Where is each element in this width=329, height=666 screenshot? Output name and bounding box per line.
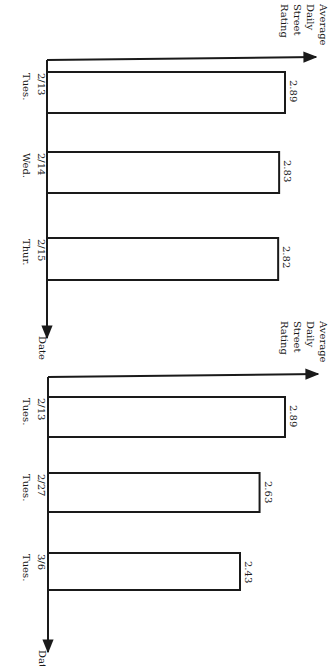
day-tick-label: Wed. — [21, 153, 32, 178]
day-tick-label: Thur. — [21, 239, 32, 265]
rating-axis-label: Daily — [305, 4, 316, 30]
rating-axis-label: Rating — [279, 4, 290, 38]
chart-top: AverageDailyStreetRatingDate2.892/13Tues… — [21, 3, 329, 360]
day-tick-label: Tues. — [21, 73, 32, 100]
rating-axis-label: Average — [318, 3, 329, 46]
bar — [48, 553, 240, 590]
bar — [47, 152, 279, 193]
bar-value-label: 2.83 — [282, 160, 293, 182]
day-tick-label: Tues. — [21, 398, 32, 425]
date-axis-label: Date — [37, 336, 48, 360]
date-tick-label: 2/14 — [36, 153, 47, 175]
day-tick-label: Tues. — [21, 554, 32, 581]
date-tick-label: 3/6 — [36, 554, 47, 570]
rating-axis-label: Daily — [305, 321, 316, 347]
bar — [47, 238, 278, 280]
bar — [47, 72, 285, 113]
date-tick-label: 2/15 — [36, 239, 47, 261]
date-axis-label: Date — [37, 650, 48, 666]
bar-value-label: 2.63 — [263, 481, 274, 503]
date-tick-label: 2/13 — [36, 73, 47, 95]
rating-axis-arrow — [47, 57, 316, 60]
bar-value-label: 2.82 — [281, 246, 292, 268]
date-tick-label: 2/13 — [36, 398, 47, 420]
bar-value-label: 2.43 — [243, 561, 254, 583]
chart-canvas: AverageDailyStreetRatingDate2.892/13Tues… — [0, 0, 329, 666]
rating-axis-label: Average — [318, 320, 329, 363]
day-tick-label: Tues. — [21, 474, 32, 501]
bar-value-label: 2.89 — [288, 80, 299, 102]
bar — [48, 397, 285, 437]
rating-axis-label: Street — [292, 321, 303, 353]
date-tick-label: 2/27 — [36, 474, 47, 496]
chart-bottom: AverageDailyStreetRatingDate2.892/13Tues… — [21, 320, 329, 666]
bar-value-label: 2.89 — [288, 405, 299, 427]
rating-axis-label: Rating — [279, 321, 290, 355]
bar — [48, 473, 260, 512]
rating-axis-label: Street — [292, 4, 303, 36]
rating-axis-arrow — [48, 374, 318, 377]
